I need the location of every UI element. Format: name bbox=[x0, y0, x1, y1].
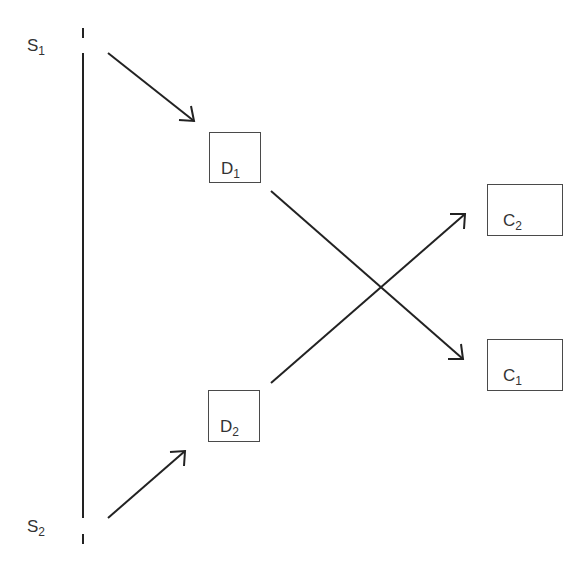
node-c1-label: C1 bbox=[503, 367, 522, 384]
node-d2-label: D2 bbox=[220, 418, 239, 435]
label-s1: S1 bbox=[27, 37, 45, 54]
node-c2-base: C bbox=[503, 211, 515, 230]
node-d1-base: D bbox=[221, 159, 233, 178]
node-d1: D1 bbox=[209, 132, 261, 183]
node-c1: C1 bbox=[487, 339, 563, 391]
arrow-d1-to-c1 bbox=[271, 191, 463, 359]
node-c2-sub: 2 bbox=[515, 219, 522, 233]
node-d1-sub: 1 bbox=[233, 167, 240, 181]
diagram-lines bbox=[0, 0, 584, 572]
node-d2-base: D bbox=[220, 417, 232, 436]
arrow-d2-to-c2 bbox=[271, 214, 465, 383]
arrow-s2-to-d2 bbox=[108, 451, 185, 518]
node-c2-label: C2 bbox=[503, 212, 522, 229]
diagram-canvas: S1 S2 D1 D2 C2 C1 bbox=[0, 0, 584, 572]
node-d1-label: D1 bbox=[221, 160, 240, 177]
label-s2-base: S bbox=[27, 517, 38, 536]
node-c1-sub: 1 bbox=[515, 374, 522, 388]
label-s1-base: S bbox=[27, 36, 38, 55]
label-s1-sub: 1 bbox=[38, 44, 45, 58]
node-d2: D2 bbox=[208, 390, 260, 442]
label-s2-sub: 2 bbox=[38, 525, 45, 539]
arrow-s1-to-d1 bbox=[108, 53, 194, 121]
node-c2: C2 bbox=[487, 184, 563, 236]
node-d2-sub: 2 bbox=[232, 425, 239, 439]
node-c1-base: C bbox=[503, 366, 515, 385]
label-s2: S2 bbox=[27, 518, 45, 535]
